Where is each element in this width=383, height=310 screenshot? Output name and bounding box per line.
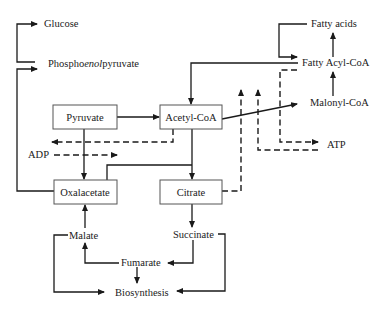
node-acetyl-coa: Acetyl-CoA: [160, 105, 222, 129]
node-citrate: Citrate: [160, 180, 222, 204]
fatty-acids-label: Fatty acids: [311, 18, 357, 29]
adp-label: ADP: [28, 149, 49, 160]
arrow-acetyl-coa-to-malonyl-coa: [222, 104, 297, 119]
succinate-label: Succinate: [173, 229, 214, 240]
arrow-fumarate-to-malate: [85, 243, 119, 263]
citrate-label: Citrate: [177, 187, 206, 198]
acetyl-coa-label: Acetyl-CoA: [165, 112, 217, 123]
dashed-citrate-effector: [222, 90, 241, 191]
biosynthesis-label: Biosynthesis: [115, 287, 169, 298]
oxalacetate-label: Oxalacetate: [60, 187, 110, 198]
glucose-label: Glucose: [44, 18, 79, 29]
arrow-fatty-acyl-coa-to-acetyl-coa: [191, 63, 298, 104]
fumarate-label: Fumarate: [121, 257, 161, 268]
phosphoenolpyruvate-label: Phosphoenolpyruvate: [48, 58, 139, 69]
node-oxalacetate: Oxalacetate: [54, 180, 117, 204]
malonyl-coa-label: Malonyl-CoA: [310, 97, 369, 108]
dashed-acetyl-coa-effector: [52, 129, 173, 142]
atp-label: ATP: [327, 139, 346, 150]
arrow-oxalacetate-to-pep: [17, 69, 54, 191]
fatty-acyl-coa-label: Fatty Acyl-CoA: [302, 57, 370, 68]
arrow-fatty-acids-to-fatty-acyl-coa: [279, 24, 307, 57]
node-pyruvate: Pyruvate: [53, 105, 117, 129]
arrow-pep-to-glucose: [17, 24, 37, 62]
arrow-succinate-to-fumarate: [168, 240, 193, 263]
metabolic-pathway-diagram: Pyruvate Acetyl-CoA Oxalacetate Citrate …: [0, 0, 383, 310]
pyruvate-label: Pyruvate: [66, 112, 104, 123]
line-oxalacetate-to-citrate: [107, 165, 192, 180]
dashed-atp-effector: [258, 90, 318, 150]
malate-label: Malate: [69, 230, 98, 241]
